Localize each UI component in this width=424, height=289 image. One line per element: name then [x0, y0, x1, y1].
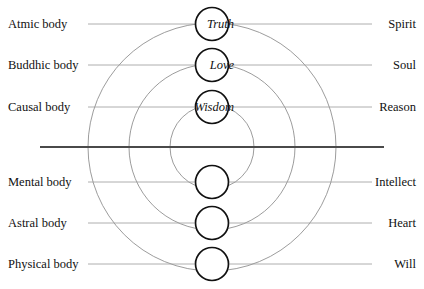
label-right-physical: Will	[394, 258, 416, 271]
label-inner-causal: Wisdom	[194, 101, 234, 114]
label-right-mental: Intellect	[375, 176, 416, 189]
diagram-vector-layer	[0, 0, 424, 289]
label-left-astral: Astral body	[8, 217, 67, 230]
node-circles-group	[196, 8, 229, 281]
label-left-buddhic: Buddhic body	[8, 59, 78, 72]
label-right-astral: Heart	[388, 217, 416, 230]
label-left-mental: Mental body	[8, 176, 72, 189]
label-left-causal: Causal body	[8, 101, 70, 114]
label-right-buddhic: Soul	[393, 59, 416, 72]
label-left-atmic: Atmic body	[8, 18, 67, 31]
node-circle-physical[interactable]	[196, 248, 229, 281]
diagram-canvas: Atmic bodyTruthSpiritBuddhic bodyLoveSou…	[0, 0, 424, 289]
label-right-atmic: Spirit	[388, 18, 416, 31]
label-inner-atmic: Truth	[207, 18, 234, 31]
node-circle-mental[interactable]	[196, 166, 229, 199]
label-inner-buddhic: Love	[210, 59, 234, 72]
label-right-causal: Reason	[379, 101, 416, 114]
label-left-physical: Physical body	[8, 258, 78, 271]
node-circle-astral[interactable]	[196, 207, 229, 240]
